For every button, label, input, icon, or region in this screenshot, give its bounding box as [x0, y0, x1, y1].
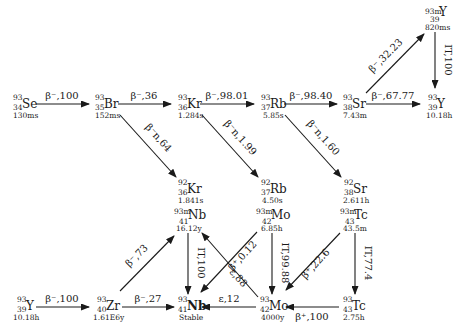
transition-label: IT,77.4 — [363, 246, 374, 281]
transition-arrow: IT,100 — [188, 233, 207, 294]
svg-text:Tc: Tc — [352, 299, 366, 313]
svg-text:4.50s: 4.50s — [262, 196, 283, 205]
transition-label: β⁻,100 — [45, 293, 78, 304]
svg-text:Tc: Tc — [354, 208, 368, 222]
transition-arrow: β⁺,22.6 — [286, 233, 340, 290]
svg-text:Nb: Nb — [188, 208, 207, 222]
svg-text:Rb: Rb — [270, 182, 287, 196]
svg-text:Y: Y — [25, 299, 35, 313]
svg-text:Sr: Sr — [353, 182, 367, 196]
nuclide-tc93: 93 43 Tc 2.75h — [343, 295, 366, 322]
svg-text:Rb: Rb — [270, 97, 287, 111]
svg-text:10.18h: 10.18h — [13, 313, 39, 322]
transition-label: β⁻,27 — [135, 293, 162, 304]
svg-text:Y: Y — [438, 5, 448, 19]
svg-text:Y: Y — [436, 97, 446, 111]
transition-label: β⁻n,1.60 — [305, 118, 342, 157]
transition-arrow: β⁻,36 — [118, 90, 171, 104]
nuclide-kr92: 92 36 Kr 1.841s — [178, 178, 203, 205]
svg-text:820ms: 820ms — [425, 23, 450, 32]
svg-text:Mo: Mo — [269, 299, 289, 313]
nuclide-y93m: 93m 39 Y 820ms — [425, 5, 450, 32]
svg-text:2.75h: 2.75h — [343, 313, 365, 322]
nuclide-y93: 93 39 Y 10.18h — [426, 93, 452, 120]
nuclide-se93: 93 34 Se 130ms — [13, 93, 38, 120]
transition-label: β⁻n,1.99 — [222, 118, 259, 157]
svg-text:Kr: Kr — [187, 97, 202, 111]
transition-arrow: IT,99.88 — [272, 233, 291, 294]
nuclide-tc93m: 93m 43 Tc 43.5m — [340, 207, 368, 233]
transition-label: β⁻,67.77 — [372, 90, 415, 101]
svg-text:Br: Br — [104, 97, 119, 111]
transition-arrow: β⁻n,1.60 — [285, 115, 342, 177]
nuclide-nb93m: 93m 41 Nb 16.12y — [174, 207, 207, 233]
nuclide-br93: 93 35 Br 152ms — [95, 93, 120, 120]
transition-label: β⁺,0.12 — [226, 238, 259, 272]
transition-arrow: β⁻,98.01 — [200, 90, 254, 104]
transition-label: β⁻,98.01 — [206, 90, 249, 101]
transition-arrow: β⁻,32.23 — [366, 34, 424, 93]
transition-arrow: ε,12 — [202, 293, 256, 307]
svg-text:43.5m: 43.5m — [343, 224, 367, 233]
transition-arrow: β⁻,67.77 — [366, 90, 420, 104]
transition-arrow: β⁻n,1.99 — [202, 115, 259, 177]
svg-text:1.61E6y: 1.61E6y — [93, 313, 125, 322]
svg-text:16.12y: 16.12y — [176, 224, 202, 233]
nuclide-sr92: 92 38 Sr 2.611h — [343, 178, 369, 205]
svg-text:1.284s: 1.284s — [178, 111, 203, 120]
transition-label: IT,100 — [196, 247, 207, 278]
transition-label: β⁻,32.23 — [366, 36, 404, 74]
transition-label: IT,99.88 — [280, 243, 291, 284]
transition-arrow: β⁻,73 — [120, 236, 174, 291]
transition-arrow: IT,100 — [435, 32, 454, 88]
nuclide-mo93: 93 42 Mo 4000y — [260, 295, 289, 322]
transition-label: β⁻,36 — [131, 90, 158, 101]
svg-text:Sr: Sr — [352, 97, 366, 111]
nuclide-rb92: 92 37 Rb 4.50s — [261, 178, 287, 205]
svg-text:1.841s: 1.841s — [178, 196, 203, 205]
svg-text:10.18h: 10.18h — [426, 111, 452, 120]
svg-text:Zr: Zr — [106, 299, 120, 313]
svg-text:Nb: Nb — [187, 299, 206, 313]
nuclide-nb93: 93 41 Nb Stable — [178, 295, 206, 322]
nuclide-y93-bottom: 93 39 Y 10.18h — [13, 295, 39, 322]
svg-text:Kr: Kr — [187, 182, 202, 196]
transition-label: β⁻,100 — [45, 90, 78, 101]
svg-text:130ms: 130ms — [13, 111, 38, 120]
transition-arrow: IT,77.4 — [355, 233, 374, 294]
nuclide-mo93m: 93m 42 Mo 6.85h — [256, 207, 291, 233]
nuclide-rb93: 93 37 Rb 5.85s — [261, 93, 287, 120]
transition-arrow: β⁻,98.40 — [284, 90, 337, 104]
svg-text:152ms: 152ms — [95, 111, 120, 120]
svg-text:4000y: 4000y — [261, 313, 285, 322]
nuclide-zr93: 93 40 Zr 1.61E6y — [93, 295, 125, 322]
svg-text:Mo: Mo — [271, 208, 291, 222]
svg-text:2.611h: 2.611h — [343, 196, 369, 205]
svg-text:Stable: Stable — [179, 313, 204, 322]
svg-text:5.85s: 5.85s — [263, 111, 284, 120]
transition-label: β⁻n,64 — [143, 122, 174, 154]
transition-arrow: β⁻,100 — [36, 90, 89, 104]
nuclide-kr93: 93 36 Kr 1.284s — [178, 93, 203, 120]
svg-text:Se: Se — [22, 97, 37, 111]
transition-arrow: β⁻,100 — [36, 293, 89, 307]
transition-label: β⁺,100 — [295, 311, 328, 322]
svg-text:7.43m: 7.43m — [343, 111, 367, 120]
nuclide-sr93: 93 38 Sr 7.43m — [343, 93, 367, 120]
transition-arrow: β⁻n,64 — [120, 115, 176, 177]
transition-arrow: β⁺,100 — [286, 307, 339, 322]
transition-label: β⁻,98.40 — [290, 90, 333, 101]
transition-label: IT,100 — [443, 44, 454, 75]
svg-text:6.85h: 6.85h — [261, 224, 283, 233]
transition-arrow: β⁻,27 — [122, 293, 174, 307]
transition-label: ε,12 — [218, 293, 239, 304]
transition-label: β⁺,22.6 — [299, 246, 332, 280]
decay-chain-diagram: β⁻,100 β⁻,36 β⁻,98.01 β⁻,98.40 β⁻,67.77 … — [0, 0, 462, 332]
